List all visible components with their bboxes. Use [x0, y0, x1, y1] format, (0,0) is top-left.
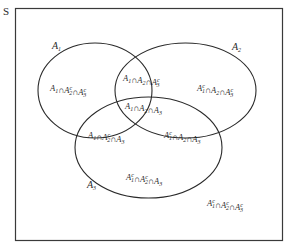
venn-diagram: S A1 A2 A3 A1∩Ac2∩Ac3A1∩A2∩Ac3Ac1∩A2∩Ac3… [0, 0, 290, 249]
region-label-only-a1: A1∩Ac2∩Ac3 [49, 83, 87, 98]
region-label-a1-a3-not-a2: A1∩Ac2∩A3 [87, 130, 125, 145]
universe-label: S [3, 5, 9, 17]
region-label-a1-a2-not-a3: A1∩A2∩Ac3 [122, 73, 160, 88]
region-labels: A1∩Ac2∩Ac3A1∩A2∩Ac3Ac1∩A2∩Ac3A1∩A2∩A3A1∩… [49, 73, 243, 213]
set-label-a2: A2 [231, 41, 241, 53]
region-label-all-three: A1∩A2∩A3 [124, 101, 162, 116]
region-label-a2-a3-not-a1: Ac1∩A2∩A3 [163, 130, 201, 145]
region-label-only-a2: Ac1∩A2∩Ac3 [196, 83, 234, 98]
region-label-none: Ac1∩Ac2∩Ac3 [206, 198, 243, 213]
set-label-a3: A3 [86, 179, 96, 191]
set-label-a1: A1 [51, 40, 61, 52]
region-label-only-a3: Ac1∩Ac2∩A3 [125, 172, 162, 187]
